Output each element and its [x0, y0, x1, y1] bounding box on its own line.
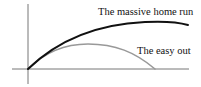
home-run-label: The massive home run	[98, 7, 193, 18]
easy-out-label: The easy out	[137, 46, 191, 57]
easy-out-curve	[28, 44, 155, 69]
